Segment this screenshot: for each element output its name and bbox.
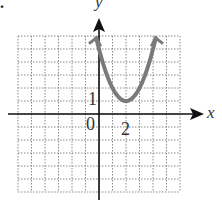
axes [8, 18, 204, 200]
y-axis-label: y [95, 0, 103, 12]
y-tick-label-1: 1 [88, 89, 97, 110]
x-axis-label: x [207, 103, 215, 123]
graph-figure: . x y 0 2 1 [0, 0, 222, 201]
x-tick-label-2: 2 [121, 119, 130, 140]
coordinate-plane [0, 0, 222, 201]
origin-label: 0 [86, 114, 95, 135]
